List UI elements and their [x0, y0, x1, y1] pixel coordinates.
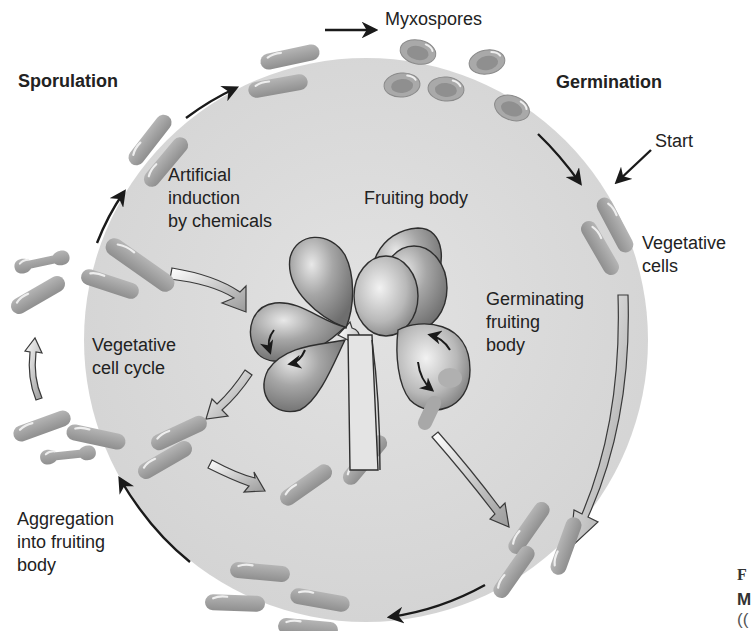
- label-start: Start: [655, 130, 693, 153]
- start-arrow-icon: [617, 150, 651, 182]
- dumbbell-cell-icon: [39, 445, 96, 465]
- label-germination: Germination: [556, 71, 662, 94]
- label-myxospores: Myxospores: [385, 8, 482, 31]
- myxospore-icon: [467, 47, 507, 77]
- hollow-arrow-left-up-icon: [25, 338, 42, 400]
- rod-cell-icon: [11, 408, 73, 444]
- caption-fragment-source: ((: [737, 608, 748, 631]
- dumbbell-cell-icon: [13, 249, 71, 275]
- rod-cell-icon: [205, 594, 266, 612]
- rod-cell-icon: [8, 273, 68, 317]
- caption-fragment-figure: F: [737, 563, 747, 586]
- label-fruiting-body: Fruiting body: [364, 187, 468, 210]
- label-sporulation: Sporulation: [18, 70, 118, 93]
